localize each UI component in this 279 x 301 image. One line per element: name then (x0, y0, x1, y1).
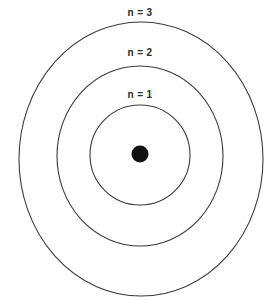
shell-label-n3: n = 3 (127, 7, 152, 18)
diagram-canvas: n = 3 n = 2 n = 1 (0, 0, 279, 301)
shell-label-n1: n = 1 (127, 89, 152, 100)
nucleus (132, 146, 149, 163)
bohr-model-diagram: n = 3 n = 2 n = 1 (0, 0, 279, 301)
shell-label-n2: n = 2 (127, 47, 152, 58)
